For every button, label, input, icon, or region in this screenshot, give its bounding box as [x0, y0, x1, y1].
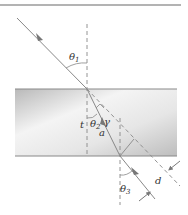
theta1-label: θ1	[69, 51, 80, 64]
d-arrow-upper	[170, 161, 180, 169]
incident-arrow-icon	[36, 33, 43, 41]
incident-ray	[17, 18, 87, 89]
a-label: a	[99, 127, 105, 138]
slab-refraction-diagram: θ1 t θ2 γ a θ3 d	[0, 0, 188, 215]
d-arrow-lower	[139, 193, 149, 201]
theta3-label: θ3	[120, 183, 131, 196]
d-label: d	[155, 175, 161, 186]
gamma-label: γ	[104, 116, 110, 127]
theta3-arc	[120, 170, 133, 175]
